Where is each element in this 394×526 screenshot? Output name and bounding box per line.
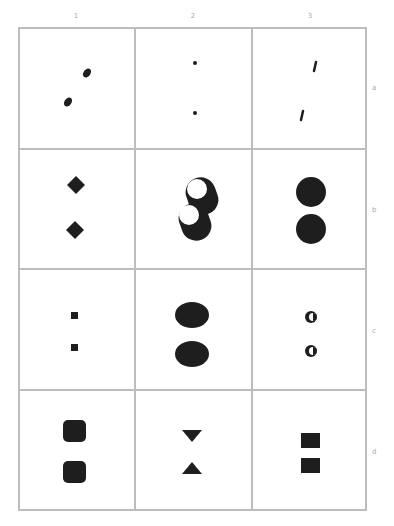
cell-b1-diamond-pair bbox=[18, 149, 135, 269]
cell-c1-small-square-pair bbox=[18, 269, 135, 390]
crescent-moon-shape bbox=[305, 345, 317, 357]
ring-hole-shape bbox=[187, 179, 207, 199]
circle-shape bbox=[296, 177, 326, 207]
square-shape bbox=[301, 458, 320, 473]
row-label-a: a bbox=[372, 84, 376, 92]
column-label-3: 3 bbox=[300, 12, 320, 20]
triangle-down-shape bbox=[182, 430, 202, 442]
cell-c3-crescent-pair bbox=[252, 269, 367, 390]
small-square-shape bbox=[71, 312, 78, 319]
ellipse-shape bbox=[62, 96, 73, 108]
square-shape bbox=[301, 433, 320, 448]
cell-b3-circle-pair bbox=[252, 149, 367, 269]
row-label-d: d bbox=[372, 448, 376, 456]
large-ellipse-shape bbox=[175, 341, 209, 367]
triangle-up-shape bbox=[182, 462, 202, 474]
diamond-shape bbox=[66, 221, 84, 239]
large-ellipse-shape bbox=[175, 302, 209, 328]
cell-c2-ellipse-pair bbox=[135, 269, 252, 390]
ellipse-shape bbox=[81, 67, 92, 79]
small-square-shape bbox=[71, 344, 78, 351]
cell-b2-ring-pair bbox=[135, 149, 252, 269]
slash-shape bbox=[301, 111, 303, 120]
cell-d2-triangle-pair bbox=[135, 390, 252, 511]
dot-shape bbox=[193, 61, 197, 65]
ring-hole-shape bbox=[179, 205, 199, 225]
circle-shape bbox=[296, 214, 326, 244]
crescent-moon-shape bbox=[305, 311, 317, 323]
column-label-1: 1 bbox=[66, 12, 86, 20]
cell-a2-dot-pair bbox=[135, 27, 252, 149]
rounded-square-shape bbox=[63, 420, 86, 442]
cell-d3-square-pair bbox=[252, 390, 367, 511]
row-label-c: c bbox=[372, 327, 376, 335]
cell-a3-slash-pair bbox=[252, 27, 367, 149]
slash-shape bbox=[314, 62, 316, 71]
diamond-shape bbox=[67, 176, 85, 194]
cell-a1-ellipse-pair bbox=[18, 27, 135, 149]
row-label-b: b bbox=[372, 206, 376, 214]
cell-d1-rounded-square-pair bbox=[18, 390, 135, 511]
rounded-square-shape bbox=[63, 461, 86, 483]
dot-shape bbox=[193, 111, 197, 115]
column-label-2: 2 bbox=[183, 12, 203, 20]
